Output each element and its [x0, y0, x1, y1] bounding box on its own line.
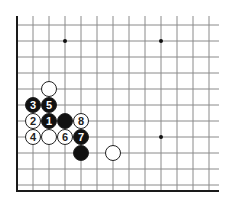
move-number: 4	[30, 131, 37, 143]
white-stone	[42, 130, 57, 145]
black-stone-3: 3	[26, 98, 41, 113]
white-stone-4: 4	[26, 130, 41, 145]
move-number: 1	[46, 115, 52, 127]
black-stone-7: 7	[74, 130, 89, 145]
move-number: 8	[78, 115, 84, 127]
black-stone-1: 1	[42, 114, 57, 129]
move-number: 7	[78, 131, 84, 143]
move-number: 5	[46, 99, 52, 111]
white-stone	[106, 146, 121, 161]
black-stone-disc	[58, 114, 73, 129]
white-stone-disc	[42, 130, 57, 145]
move-number: 3	[30, 99, 36, 111]
white-stone-6: 6	[58, 130, 73, 145]
black-stone	[74, 146, 89, 161]
white-stone	[42, 82, 57, 97]
white-stone-2: 2	[26, 114, 41, 129]
black-stone-5: 5	[42, 98, 57, 113]
black-stone-disc	[74, 146, 89, 161]
white-stone-disc	[42, 82, 57, 97]
go-board: 35218467	[0, 0, 233, 203]
move-number: 6	[62, 131, 68, 143]
star-point	[63, 39, 67, 43]
white-stone-8: 8	[74, 114, 89, 129]
white-stone-disc	[106, 146, 121, 161]
move-number: 2	[30, 115, 36, 127]
star-point	[159, 39, 163, 43]
black-stone	[58, 114, 73, 129]
star-point	[159, 135, 163, 139]
